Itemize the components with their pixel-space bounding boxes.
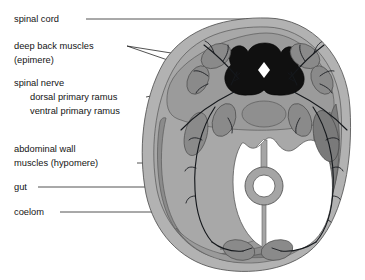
label-abdominal-wall-muscles: abdominal wall (14, 144, 76, 154)
label-deep-back-muscles: deep back muscles (14, 41, 94, 51)
cross-section-diagram: spinal cord deep back muscles (epimere) … (0, 0, 365, 280)
label-spinal-cord: spinal cord (14, 14, 59, 24)
label-dorsal-primary-ramus: dorsal primary ramus (30, 92, 118, 102)
label-gut: gut (14, 182, 27, 192)
label-spinal-nerve: spinal nerve (14, 78, 64, 88)
label-hypomere: muscles (hypomere) (14, 158, 98, 168)
gut-lumen (253, 175, 275, 197)
body-cross-section (142, 18, 350, 272)
label-coelom: coelom (14, 207, 44, 217)
label-epimere: (epimere) (14, 55, 54, 65)
anatomical-figure: spinal cord deep back muscles (epimere) … (0, 0, 365, 280)
label-ventral-primary-ramus: ventral primary ramus (30, 106, 120, 116)
label-group: spinal cord deep back muscles (epimere) … (14, 14, 120, 217)
notochord (242, 101, 286, 127)
